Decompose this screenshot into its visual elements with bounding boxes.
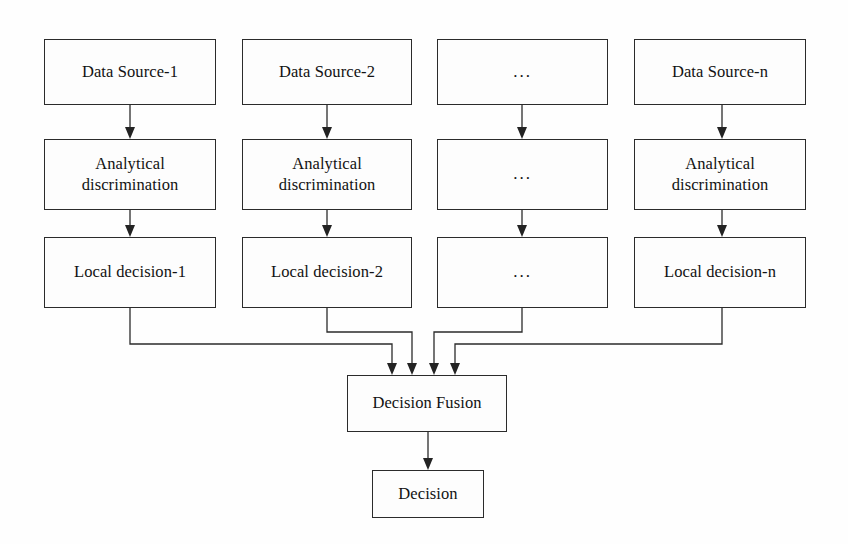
node-decision: Decision xyxy=(372,470,484,518)
node-local-decision-2: Local decision-2 xyxy=(242,237,412,308)
arrow-analytical-to-local-1 xyxy=(125,210,135,237)
node-analytical-discrimination-ellipsis: ... xyxy=(437,139,608,210)
arrow-local-2-to-fusion xyxy=(327,308,417,375)
node-label: Data Source-2 xyxy=(275,62,379,82)
arrow-local-n-to-fusion xyxy=(450,308,722,375)
node-label: ... xyxy=(509,262,536,283)
node-label-line1: Analytical xyxy=(292,154,362,173)
arrow-analytical-to-local-ellipsis xyxy=(517,210,527,237)
node-label-line1: Analytical xyxy=(685,154,755,173)
node-label: Analytical discrimination xyxy=(275,154,380,194)
arrow-fusion-to-decision xyxy=(423,432,433,470)
arrow-source-to-analytical-2 xyxy=(322,105,332,139)
node-label: ... xyxy=(509,164,536,185)
node-data-source-n: Data Source-n xyxy=(634,39,806,105)
node-data-source-ellipsis: ... xyxy=(437,39,608,105)
node-decision-fusion: Decision Fusion xyxy=(347,375,507,432)
node-label: Data Source-1 xyxy=(78,62,182,82)
node-label: Decision Fusion xyxy=(368,393,485,413)
node-label: Local decision-2 xyxy=(267,262,387,282)
node-data-source-2: Data Source-2 xyxy=(242,39,412,105)
node-analytical-discrimination-n: Analytical discrimination xyxy=(634,139,806,210)
node-analytical-discrimination-1: Analytical discrimination xyxy=(44,139,216,210)
arrow-local-ellipsis-to-fusion xyxy=(429,308,522,375)
node-local-decision-1: Local decision-1 xyxy=(44,237,216,308)
arrow-source-to-analytical-1 xyxy=(125,105,135,139)
node-label: Decision xyxy=(394,484,461,504)
arrow-analytical-to-local-2 xyxy=(322,210,332,237)
arrow-local-1-to-fusion xyxy=(130,308,397,375)
node-label: Analytical discrimination xyxy=(668,154,773,194)
node-label-line2: discrimination xyxy=(82,175,179,194)
diagram-canvas: Data Source-1 Data Source-2 ... Data Sou… xyxy=(0,0,848,544)
node-data-source-1: Data Source-1 xyxy=(44,39,216,105)
node-label-line2: discrimination xyxy=(672,175,769,194)
arrow-source-to-analytical-ellipsis xyxy=(517,105,527,139)
arrow-analytical-to-local-n xyxy=(717,210,727,237)
arrow-source-to-analytical-n xyxy=(717,105,727,139)
node-analytical-discrimination-2: Analytical discrimination xyxy=(242,139,412,210)
node-label: Analytical discrimination xyxy=(78,154,183,194)
node-label-line1: Analytical xyxy=(95,154,165,173)
node-label: Local decision-n xyxy=(660,262,780,282)
node-local-decision-n: Local decision-n xyxy=(634,237,806,308)
node-label: ... xyxy=(509,62,536,83)
node-label: Local decision-1 xyxy=(70,262,190,282)
node-label-line2: discrimination xyxy=(279,175,376,194)
node-label: Data Source-n xyxy=(668,62,772,82)
node-local-decision-ellipsis: ... xyxy=(437,237,608,308)
